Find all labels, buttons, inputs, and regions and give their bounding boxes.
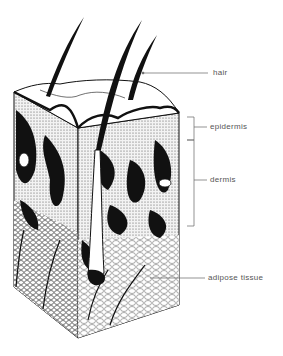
label-epidermis: epidermis	[210, 122, 247, 132]
label-hair: hair	[213, 68, 228, 78]
epidermis-bracket	[187, 117, 194, 140]
dermis-bracket	[187, 140, 194, 226]
label-adipose-tissue: adipose tissue	[208, 273, 263, 283]
label-dermis: dermis	[210, 175, 236, 185]
skin-diagram	[0, 0, 283, 356]
